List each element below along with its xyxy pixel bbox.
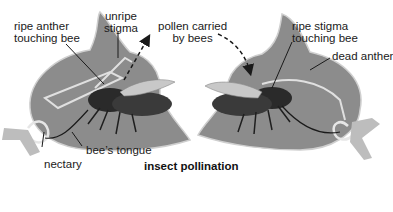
label-nectary: nectary <box>44 158 82 170</box>
label-pollen-line2: by bees <box>158 32 227 44</box>
label-pollen-carried: pollen carried by bees <box>158 20 227 44</box>
label-ripe-anther-line2: touching bee <box>14 32 80 44</box>
figure-caption: insect pollination <box>144 160 239 172</box>
label-bees-tongue: bee’s tongue <box>86 144 152 156</box>
label-unripe-stigma-line1: unripe <box>104 10 138 22</box>
label-ripe-anther-line1: ripe anther <box>14 20 80 32</box>
left-stem <box>2 128 40 156</box>
label-ripe-stigma-line1: ripe stigma <box>292 20 358 32</box>
label-unripe-stigma: unripe stigma <box>104 10 138 34</box>
label-ripe-stigma-line2: touching bee <box>292 32 358 44</box>
label-ripe-stigma: ripe stigma touching bee <box>292 20 358 44</box>
right-stem <box>350 118 380 160</box>
label-dead-anther: dead anther <box>332 50 393 62</box>
label-ripe-anther: ripe anther touching bee <box>14 20 80 44</box>
label-unripe-stigma-line2: stigma <box>104 22 138 34</box>
label-pollen-line1: pollen carried <box>158 20 227 32</box>
